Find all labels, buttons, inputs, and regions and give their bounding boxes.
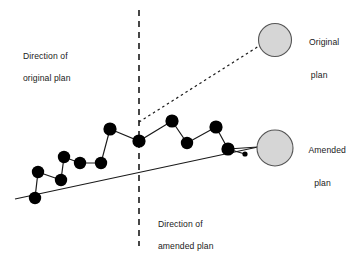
direction-amended-line2: amended plan <box>158 241 214 251</box>
zigzag-node <box>58 151 70 163</box>
zigzag-node <box>74 157 86 169</box>
original-plan-line2: plan <box>299 70 339 81</box>
original-plan-label: Original plan <box>299 26 339 103</box>
direction-original-line2: original plan <box>23 73 71 83</box>
amended-plan-label: Amended plan <box>299 134 346 211</box>
amended-plan-circle <box>257 130 293 166</box>
diagram-canvas: Direction of original plan Direction of … <box>0 0 353 258</box>
direction-original-line1: Direction of <box>23 51 68 61</box>
zigzag-node <box>29 192 41 204</box>
trend-line <box>15 147 258 199</box>
amended-plan-line1: Amended <box>308 145 346 155</box>
original-plan-projection-line <box>139 46 259 122</box>
zigzag-node <box>103 122 116 135</box>
amended-plan-line2: plan <box>299 178 346 189</box>
zigzag-node <box>132 134 145 147</box>
direction-of-original-plan-label: Direction of original plan <box>13 40 71 95</box>
zigzag-node <box>181 137 193 149</box>
zigzag-node <box>32 166 44 178</box>
original-plan-circle <box>259 24 292 57</box>
zigzag-node-small <box>242 151 247 156</box>
zigzag-node <box>209 120 222 133</box>
zigzag-node <box>221 142 234 155</box>
zigzag-node <box>165 114 178 127</box>
zigzag-node <box>55 174 67 186</box>
original-plan-line1: Original <box>309 37 339 47</box>
direction-amended-line1: Direction of <box>158 219 203 229</box>
zigzag-node <box>95 157 107 169</box>
direction-of-amended-plan-label: Direction of amended plan <box>148 208 214 258</box>
